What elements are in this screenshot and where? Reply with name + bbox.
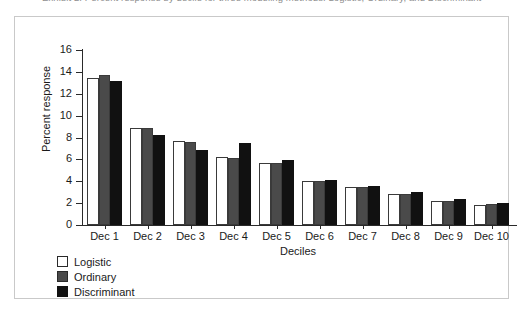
y-axis-tick-label: 8 bbox=[66, 131, 72, 143]
bar bbox=[239, 143, 251, 225]
bar bbox=[99, 75, 111, 225]
figure-caption-strip: Exhibit 2. Percent response by decile fo… bbox=[0, 0, 523, 11]
x-axis-label: Deciles bbox=[83, 245, 513, 257]
x-axis-tick bbox=[492, 225, 493, 229]
bar-group-bars bbox=[173, 50, 208, 225]
figure-border: Percent response 0246810121416 Dec 1Dec … bbox=[14, 16, 509, 299]
bar bbox=[302, 181, 314, 225]
x-axis-tick bbox=[234, 225, 235, 229]
bar-group bbox=[87, 50, 122, 225]
bar bbox=[173, 141, 185, 225]
y-axis-tick: 14 bbox=[76, 72, 82, 73]
x-axis-tick bbox=[148, 225, 149, 229]
x-axis-tick bbox=[363, 225, 364, 229]
bar-group-bars bbox=[216, 50, 251, 225]
x-axis-tick bbox=[277, 225, 278, 229]
y-axis-tick: 12 bbox=[76, 94, 82, 95]
bar bbox=[474, 205, 486, 225]
bar bbox=[411, 192, 423, 225]
bar bbox=[196, 150, 208, 225]
bar bbox=[400, 194, 412, 225]
y-axis-tick-label: 10 bbox=[60, 109, 72, 121]
x-axis-tick-label: Dec 7 bbox=[341, 230, 384, 242]
bar-group bbox=[302, 50, 337, 225]
bar-group-bars bbox=[87, 50, 122, 225]
y-axis-label: Percent response bbox=[40, 66, 52, 152]
y-axis-tick: 8 bbox=[76, 138, 82, 139]
bar bbox=[87, 78, 99, 225]
x-axis-tick bbox=[406, 225, 407, 229]
bar bbox=[497, 203, 509, 225]
bar bbox=[130, 128, 142, 225]
x-axis-tick bbox=[105, 225, 106, 229]
bar bbox=[368, 186, 380, 225]
plot-area: Dec 1Dec 2Dec 3Dec 4Dec 5Dec 6Dec 7Dec 8… bbox=[83, 50, 513, 225]
bar bbox=[282, 160, 294, 225]
bar-group bbox=[173, 50, 208, 225]
bar bbox=[325, 180, 337, 225]
bar bbox=[259, 163, 271, 225]
bar bbox=[357, 187, 369, 225]
bar-group-bars bbox=[130, 50, 165, 225]
bar-group bbox=[474, 50, 509, 225]
x-axis-tick-label: Dec 1 bbox=[83, 230, 126, 242]
bar bbox=[216, 157, 228, 225]
bar bbox=[443, 201, 455, 225]
legend-item: Ordinary bbox=[57, 269, 135, 284]
bar bbox=[110, 81, 122, 225]
bar bbox=[314, 181, 326, 225]
legend-swatch bbox=[57, 256, 68, 267]
bar bbox=[153, 135, 165, 225]
legend-label: Discriminant bbox=[74, 286, 135, 298]
y-axis-tick: 2 bbox=[76, 203, 82, 204]
bar bbox=[454, 199, 466, 225]
bar bbox=[486, 204, 498, 225]
bar-group bbox=[130, 50, 165, 225]
bar bbox=[142, 128, 154, 225]
x-axis-tick-label: Dec 10 bbox=[470, 230, 513, 242]
y-axis-tick-label: 12 bbox=[60, 87, 72, 99]
x-axis-tick-label: Dec 2 bbox=[126, 230, 169, 242]
bar-group bbox=[388, 50, 423, 225]
bar bbox=[388, 194, 400, 225]
figure-caption-text: Exhibit 2. Percent response by decile fo… bbox=[42, 0, 481, 3]
legend-label: Logistic bbox=[74, 256, 111, 268]
bar-group bbox=[431, 50, 466, 225]
x-axis-tick-label: Dec 5 bbox=[255, 230, 298, 242]
y-axis-tick-label: 6 bbox=[66, 152, 72, 164]
bar-group-bars bbox=[345, 50, 380, 225]
bar bbox=[228, 158, 240, 225]
legend-swatch bbox=[57, 286, 68, 297]
y-axis-tick-label: 4 bbox=[66, 174, 72, 186]
x-axis-tick bbox=[320, 225, 321, 229]
x-axis-tick bbox=[191, 225, 192, 229]
y-axis-tick: 4 bbox=[76, 181, 82, 182]
y-axis-tick-label: 16 bbox=[60, 43, 72, 55]
x-axis-tick-label: Dec 8 bbox=[384, 230, 427, 242]
bar bbox=[271, 163, 283, 225]
y-axis-tick: 16 bbox=[76, 50, 82, 51]
x-axis-tick-label: Dec 3 bbox=[169, 230, 212, 242]
x-axis-tick-label: Dec 9 bbox=[427, 230, 470, 242]
bar-group bbox=[216, 50, 251, 225]
x-axis-tick-label: Dec 6 bbox=[298, 230, 341, 242]
chart-legend: LogisticOrdinaryDiscriminant bbox=[57, 254, 135, 299]
bar-group bbox=[259, 50, 294, 225]
legend-item: Discriminant bbox=[57, 284, 135, 299]
bar-group-bars bbox=[474, 50, 509, 225]
x-axis-tick-label: Dec 4 bbox=[212, 230, 255, 242]
bar bbox=[345, 187, 357, 225]
y-axis-tick-label: 0 bbox=[66, 218, 72, 230]
legend-swatch bbox=[57, 271, 68, 282]
legend-item: Logistic bbox=[57, 254, 135, 269]
y-axis-tick-label: 14 bbox=[60, 65, 72, 77]
bar bbox=[431, 201, 443, 225]
bar-group-bars bbox=[388, 50, 423, 225]
bar-group-bars bbox=[431, 50, 466, 225]
legend-label: Ordinary bbox=[74, 271, 116, 283]
y-axis-tick: 0 bbox=[76, 225, 82, 226]
bar-group bbox=[345, 50, 380, 225]
bar bbox=[185, 142, 197, 225]
x-axis-tick bbox=[449, 225, 450, 229]
bar-group-bars bbox=[259, 50, 294, 225]
